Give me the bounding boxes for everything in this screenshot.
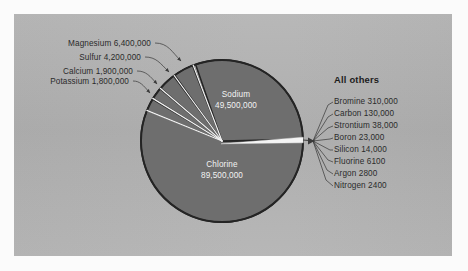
legend-item-fluorine[interactable]: Fluorine 6100	[334, 157, 385, 166]
pie-label-sodium-name: Sodium	[200, 90, 272, 99]
callout-magnesium: Magnesium 6,400,000	[68, 39, 151, 48]
leader-calcium	[137, 71, 157, 84]
leader-potassium	[133, 81, 150, 93]
all-others-heading: All others	[334, 74, 379, 85]
leader-entry-bromine	[313, 102, 333, 141]
legend-item-nitrogen[interactable]: Nitrogen 2400	[334, 181, 387, 190]
pie-label-sodium-value: 49,500,000	[200, 101, 272, 110]
legend-item-strontium[interactable]: Strontium 38,000	[334, 121, 398, 130]
callout-potassium: Potassium 1,800,000	[50, 77, 129, 86]
pie-label-chlorine-value: 89,500,000	[186, 171, 258, 180]
legend-item-boron[interactable]: Boron 23,000	[334, 133, 384, 142]
figure-root: Magnesium 6,400,000 Sulfur 4,200,000 Cal…	[0, 0, 468, 271]
legend-item-silicon[interactable]: Silicon 14,000	[334, 145, 387, 154]
leader-entry-silicon	[313, 141, 333, 150]
callout-sulfur: Sulfur 4,200,000	[79, 53, 141, 62]
pie-label-chlorine-name: Chlorine	[186, 160, 258, 169]
right-leader-lines	[303, 102, 333, 186]
legend-item-carbon[interactable]: Carbon 130,000	[334, 109, 394, 118]
legend-item-bromine[interactable]: Bromine 310,000	[334, 97, 398, 106]
leader-magnesium	[155, 43, 181, 61]
leader-sulfur	[145, 57, 169, 72]
callout-calcium: Calcium 1,900,000	[63, 67, 133, 76]
legend-item-argon[interactable]: Argon 2800	[334, 169, 377, 178]
leader-entry-fluorine	[313, 141, 333, 162]
